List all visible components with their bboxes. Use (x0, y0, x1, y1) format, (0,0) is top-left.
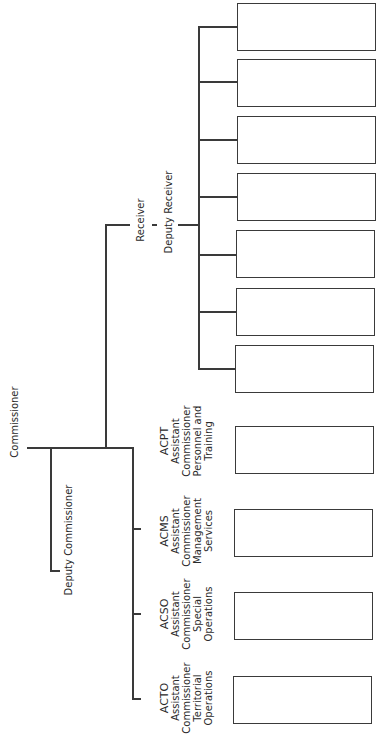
connector-receiver-vertical (105, 224, 107, 448)
branch-acso (132, 613, 141, 615)
receiver-label: Receiver (135, 198, 146, 241)
receiver-unit-box-5 (236, 230, 375, 278)
acso-label: ACSO Assistant Commissioner Special Oper… (159, 578, 214, 649)
acto-box (233, 676, 372, 724)
receiver-unit-box-6 (236, 288, 375, 336)
acms-label: ACMS Assistant Commissioner Management S… (159, 495, 214, 566)
acms-box (234, 509, 373, 557)
acso-box (234, 592, 373, 640)
acpt-box (235, 426, 374, 474)
connector-receiver-deputy (152, 224, 157, 226)
branch-receiver-5 (198, 254, 238, 256)
branch-receiver-3 (198, 139, 238, 141)
deputy-commissioner-label: Deputy Commissioner (63, 485, 74, 596)
branch-receiver-6 (198, 311, 238, 313)
receiver-unit-box-1 (237, 3, 376, 51)
branch-receiver-7 (198, 368, 238, 370)
branch-acms (132, 528, 141, 530)
branch-receiver-4 (198, 196, 238, 198)
acto-label: ACTO Assistant Commissioner Territorial … (159, 662, 214, 733)
connector-deputy-receiver-bus (178, 224, 199, 226)
branch-acto (132, 698, 141, 700)
receiver-unit-box-3 (237, 116, 376, 164)
branch-receiver-2 (198, 81, 238, 83)
connector-deputy-horizontal (50, 570, 60, 572)
acpt-label: ACPT Assistant Commissioner Personnel an… (159, 405, 214, 476)
deputy-receiver-label: Deputy Receiver (163, 171, 174, 254)
receiver-unit-box-2 (237, 59, 376, 107)
receiver-unit-box-7 (235, 345, 374, 393)
assistant-bus (132, 447, 134, 699)
receiver-unit-box-4 (237, 173, 376, 221)
connector-commissioner-bus (27, 447, 134, 449)
connector-receiver-horizontal (105, 224, 130, 226)
commissioner-label: Commissioner (9, 386, 20, 457)
branch-receiver-1 (198, 26, 238, 28)
connector-deputy-vertical (50, 447, 52, 571)
